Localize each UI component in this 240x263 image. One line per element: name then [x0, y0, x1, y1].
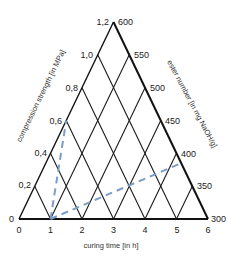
right-tick-2: 400 [181, 149, 196, 159]
bottom-tick-3: 3 [111, 225, 116, 235]
left-axis-title: compression strength [in MPa] [15, 48, 67, 143]
bottom-tick-6: 6 [205, 225, 210, 235]
left-tick-5: 1,0 [80, 50, 93, 60]
dashed-path-ester [51, 163, 182, 219]
right-axis-title: ester number [in mg NaOH/g] [165, 58, 219, 149]
bottom-tick-1: 1 [48, 225, 53, 235]
ternary-diagram: 0 1 2 3 4 5 6 0 0,2 0,4 0,6 0,8 1,0 1,2 … [0, 0, 240, 263]
left-tick-2: 0,4 [34, 148, 47, 158]
right-tick-0: 300 [211, 214, 226, 224]
grid-line-right-parallel [66, 121, 113, 220]
bottom-axis-title: curing time [in h] [83, 241, 138, 250]
left-tick-1: 0,2 [18, 180, 31, 190]
left-tick-0: 0 [9, 214, 14, 224]
right-tick-labels: 300 350 400 450 500 550 600 [118, 17, 226, 224]
left-tick-3: 0,6 [49, 116, 62, 126]
grid-line-left-parallel [51, 55, 130, 219]
grid-line-right-parallel [35, 186, 51, 219]
bottom-tick-2: 2 [79, 225, 84, 235]
bottom-tick-5: 5 [174, 225, 179, 235]
right-tick-4: 500 [150, 83, 165, 93]
bottom-tick-4: 4 [142, 225, 147, 235]
right-tick-3: 450 [165, 116, 180, 126]
right-tick-5: 550 [134, 50, 149, 60]
grid-line-left-parallel [114, 121, 161, 220]
grid-line-left-parallel [177, 186, 193, 219]
right-tick-6: 600 [118, 17, 133, 27]
left-tick-4: 0,8 [65, 83, 78, 93]
right-tick-1: 350 [197, 181, 212, 191]
left-tick-6: 1,2 [96, 17, 109, 27]
dashed-paths [51, 121, 182, 220]
bottom-tick-labels: 0 1 2 3 4 5 6 [16, 225, 210, 235]
dashed-path-strength [51, 121, 67, 220]
bottom-tick-0: 0 [16, 225, 21, 235]
